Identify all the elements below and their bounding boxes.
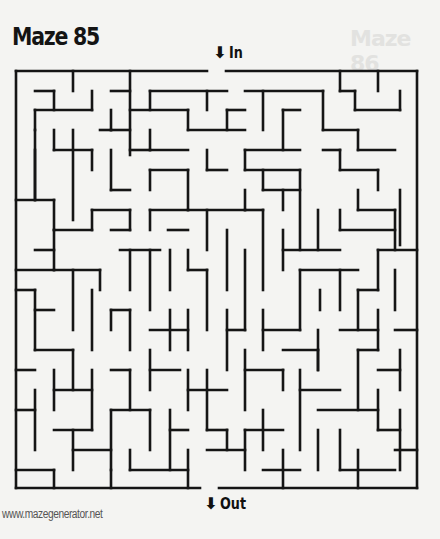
maze-grid [0, 0, 440, 539]
exit-marker: ⬇ Out [204, 495, 251, 513]
source-credit: www.mazegenerator.net [2, 507, 103, 521]
exit-label: Out [220, 495, 246, 513]
down-arrow-icon: ⬇ [204, 496, 217, 512]
